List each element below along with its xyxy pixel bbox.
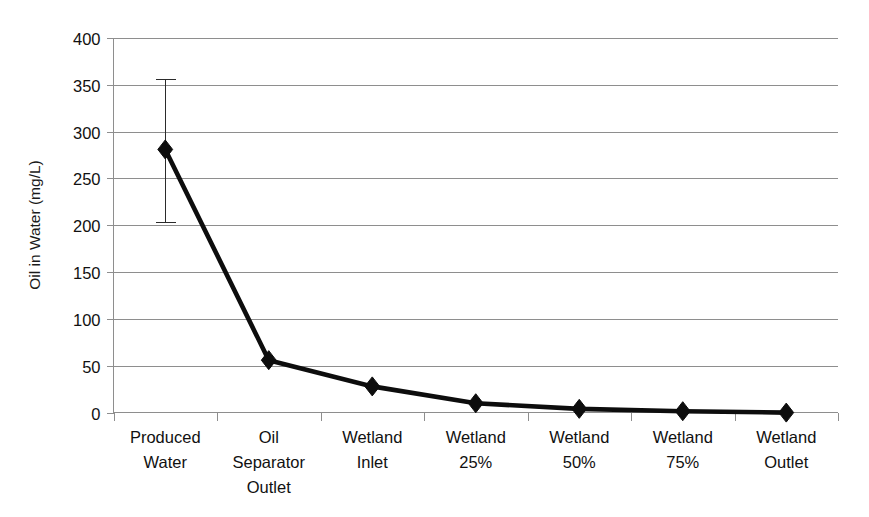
x-tick-label-line: Wetland [653,428,713,446]
x-tick-label-line: Outlet [247,478,291,496]
y-tick-label: 350 [73,77,101,95]
y-tick-label: 400 [73,30,101,48]
x-tick-label-line: Oil [259,428,279,446]
x-tick-label-line: Produced [130,428,201,446]
x-tick-label-line: Outlet [764,453,808,471]
x-tick-label-line: 25% [459,453,492,471]
y-axis-title: Oil in Water (mg/L) [26,160,43,289]
chart-container: 050100150200250300350400 ProducedWaterOi… [0,0,869,517]
oil-in-water-line-chart: 050100150200250300350400 ProducedWaterOi… [0,0,869,517]
y-tick-label: 50 [82,358,100,376]
x-tick-label-line: Wetland [756,428,816,446]
x-tick-label-line: 50% [563,453,596,471]
y-tick-label: 200 [73,217,101,235]
y-tick-label: 300 [73,124,101,142]
x-tick-label-line: Separator [233,453,306,471]
x-tick-label-line: 75% [666,453,699,471]
x-tick-label-line: Wetland [446,428,506,446]
x-tick-label-line: Wetland [549,428,609,446]
x-tick-label-line: Wetland [342,428,402,446]
y-tick-label: 0 [91,405,100,423]
x-tick-label-line: Inlet [357,453,389,471]
y-tick-label: 150 [73,264,101,282]
y-tick-label: 100 [73,311,101,329]
x-tick-label-line: Water [144,453,188,471]
y-tick-label: 250 [73,170,101,188]
